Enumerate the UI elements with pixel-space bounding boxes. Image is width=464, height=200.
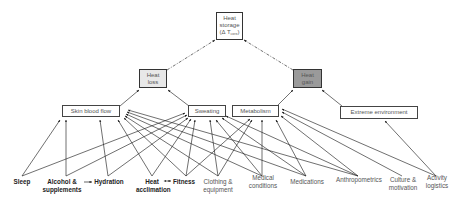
node-sweating: Sweating bbox=[188, 105, 226, 117]
factor-heat-acclimation: Heat acclimation bbox=[136, 178, 168, 193]
factor-medications: Medications bbox=[288, 178, 326, 186]
heat-gain-line1: Heat bbox=[301, 72, 314, 79]
factor-medical-conditions: Medical conditions bbox=[246, 174, 280, 189]
factor-alcohol-supplements: Alcohol & supplements bbox=[40, 178, 84, 193]
heat-storage-line1: Heat bbox=[223, 15, 236, 22]
heat-loss-line2: loss bbox=[148, 79, 159, 86]
factor-edges bbox=[22, 109, 436, 176]
heat-storage-line3: (Δ Tcore) bbox=[220, 29, 240, 38]
skin-blood-flow-label: Skin blood flow bbox=[71, 108, 111, 115]
node-skin-blood-flow: Skin blood flow bbox=[62, 105, 120, 117]
factor-anthropometrics: Anthropometrics bbox=[334, 176, 384, 184]
upper-edges bbox=[120, 90, 342, 106]
sweating-label: Sweating bbox=[195, 108, 220, 115]
node-metabolism: Metabolism bbox=[232, 105, 279, 117]
node-extreme-environment: Extreme environment bbox=[340, 106, 418, 119]
factor-sleep: Sleep bbox=[8, 178, 36, 186]
heat-loss-line1: Heat bbox=[147, 72, 160, 79]
factor-clothing-equipment: Clothing & equipment bbox=[200, 178, 236, 193]
node-heat-gain: Heat gain bbox=[293, 69, 322, 88]
heat-storage-line2: storage bbox=[219, 22, 239, 29]
factor-activity-logistics: Activity logistics bbox=[422, 174, 452, 189]
metabolism-label: Metabolism bbox=[240, 108, 271, 115]
heat-gain-line2: gain bbox=[302, 79, 313, 86]
node-heat-storage: Heat storage (Δ Tcore) bbox=[216, 12, 243, 40]
dashed-edges bbox=[167, 40, 293, 70]
extreme-environment-label: Extreme environment bbox=[350, 109, 407, 116]
factor-fitness: Fitness bbox=[171, 178, 197, 186]
node-heat-loss: Heat loss bbox=[139, 69, 167, 88]
factor-culture-motivation: Culture & motivation bbox=[386, 176, 420, 191]
factor-hydration: Hydration bbox=[92, 178, 126, 186]
